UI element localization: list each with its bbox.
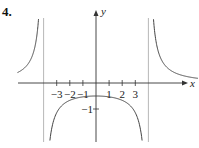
x-tick-label: −1 (77, 88, 89, 100)
x-tick-label: 3 (133, 88, 139, 100)
y-tick-label: −1 (81, 103, 93, 115)
curve-right-branch (154, 19, 199, 78)
x-axis-arrow (182, 81, 188, 86)
x-tick-label: 1 (106, 88, 112, 100)
graph: xy−3−2−1123−1 (0, 0, 198, 148)
y-axis-arrow (94, 10, 99, 16)
x-tick-label: −2 (64, 88, 76, 100)
curve-left-branch (17, 19, 38, 72)
x-tick-label: 2 (119, 88, 125, 100)
x-tick-label: −3 (51, 88, 63, 100)
y-axis-label: y (100, 5, 106, 17)
x-axis-label: x (189, 77, 195, 89)
